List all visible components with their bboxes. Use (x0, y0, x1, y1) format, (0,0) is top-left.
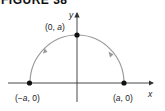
point-top (74, 32, 79, 37)
point-label-right: (a, 0) (113, 93, 133, 103)
semicircle-diagram: y x (0, a) (−a, 0) (a, 0) (0, 0, 165, 111)
point-label-top: (0, a) (45, 22, 65, 32)
y-axis-label: y (68, 10, 74, 20)
x-axis-label: x (147, 89, 153, 99)
point-right (121, 80, 126, 85)
point-label-left: (−a, 0) (15, 93, 40, 103)
point-left (27, 80, 32, 85)
